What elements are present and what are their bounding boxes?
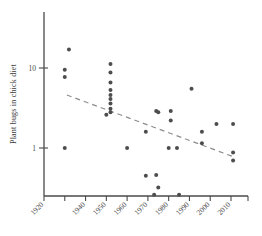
x-tick-label-1950: 1950	[91, 200, 108, 217]
data-point	[125, 146, 129, 150]
data-point	[144, 174, 148, 178]
data-point	[154, 173, 158, 177]
x-tick-label-1920: 1920	[28, 200, 45, 217]
data-point	[156, 110, 160, 114]
x-tick-label-2000: 2000	[195, 200, 212, 217]
data-point	[108, 88, 112, 92]
data-point	[175, 146, 179, 150]
x-tick-label-1980: 1980	[153, 200, 170, 217]
data-point	[200, 141, 204, 145]
y-tick-label-10: 10	[29, 64, 37, 73]
regression-trend-line	[67, 95, 233, 157]
data-point	[231, 150, 235, 154]
data-point	[231, 122, 235, 126]
data-point	[108, 107, 112, 111]
x-axis: 192019401950196019701980199020002010	[28, 196, 248, 217]
data-point	[108, 101, 112, 105]
data-point	[177, 193, 181, 197]
data-point	[63, 75, 67, 79]
scatter-chart: 110 192019401950196019701980199020002010…	[0, 0, 262, 236]
data-point	[156, 186, 160, 190]
x-tick-label-1970: 1970	[132, 200, 149, 217]
x-tick-label-1960: 1960	[112, 200, 129, 217]
data-point	[108, 70, 112, 74]
plot-canvas: 110 192019401950196019701980199020002010…	[0, 0, 262, 236]
y-axis-label: Plant bugs in chick diet	[9, 63, 18, 143]
y-tick-label-1: 1	[32, 144, 36, 153]
x-tick-label-1990: 1990	[174, 200, 191, 217]
x-tick-label-1940: 1940	[70, 200, 87, 217]
trend-line	[67, 95, 233, 157]
data-points	[63, 48, 235, 197]
data-point	[67, 48, 71, 52]
y-axis-title: Plant bugs in chick diet	[9, 63, 18, 143]
data-point	[214, 122, 218, 126]
data-point	[108, 110, 112, 114]
data-point	[108, 93, 112, 97]
data-point	[108, 62, 112, 66]
data-point	[231, 158, 235, 162]
data-point	[169, 109, 173, 113]
data-point	[167, 146, 171, 150]
x-tick-label-2010: 2010	[215, 200, 232, 217]
y-axis: 110	[29, 12, 49, 196]
data-point	[108, 97, 112, 101]
data-point	[169, 119, 173, 123]
data-point	[108, 80, 112, 84]
data-point	[200, 130, 204, 134]
data-point	[63, 68, 67, 72]
data-point	[190, 87, 194, 91]
data-point	[144, 130, 148, 134]
data-point	[104, 113, 108, 117]
data-point	[63, 146, 67, 150]
data-point	[152, 193, 156, 197]
